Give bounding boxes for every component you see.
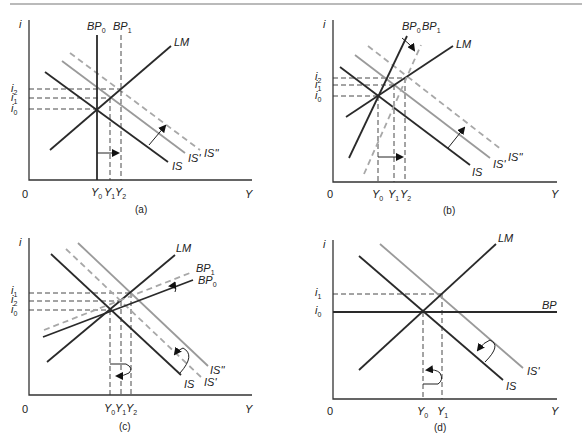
label-bp0-b: BP0 [402,20,421,34]
label-is-prime-c: IS' [204,376,217,388]
x-axis-label-c: Y [245,403,253,415]
axes-d [333,240,557,399]
label-is-prime-b: IS' [493,158,506,170]
curve-lm-b [346,46,453,117]
curl-arrow-y-d [423,370,442,384]
panel-a: i 0 Y BP0 BP1 LM IS IS' IS'' i2 i1 i0 Y0… [11,18,253,215]
tick-y0-d: Y0 [417,405,428,419]
label-is-c: IS [184,378,195,390]
label-lm-a: LM [174,36,190,48]
tick-y1-a: Y1 [104,186,115,200]
panel-c: i 0 Y LM BP1 BP0 IS'' IS' IS i1 i2 i0 Y0… [11,236,253,432]
tick-y0-a: Y0 [91,186,102,200]
y-axis-label-c: i [19,236,22,248]
curve-is-double-prime-b [368,46,502,150]
curve-is-double-prime-a [70,53,200,150]
origin-label-d: 0 [327,405,333,417]
curve-lm-c [47,255,175,362]
y-axis-label-d: i [323,238,326,250]
curve-is-prime-b [355,55,490,158]
label-lm-d: LM [498,232,514,244]
tick-y0-b: Y0 [372,188,383,202]
label-is-b: IS [472,166,483,178]
label-is-double-prime-c: IS'' [210,364,225,376]
tick-y1-c: Y1 [115,402,126,416]
y-axis-label-a: i [19,18,22,30]
label-bp1-a: BP1 [113,20,132,34]
origin-label-a: 0 [22,188,28,200]
curl-arrow-is-d [478,340,495,362]
caption-a: (a) [135,204,147,215]
label-is-a: IS [172,160,183,172]
curve-bp0-c [43,280,193,337]
label-bp1-b: BP1 [422,20,441,34]
tick-y0-c: Y0 [104,402,115,416]
origin-label-b: 0 [327,188,333,200]
curve-bp1-c [44,273,190,330]
tick-y1-d: Y1 [437,405,448,419]
curve-is-prime-d [380,244,523,368]
tick-y2-c: Y2 [126,402,137,416]
panel-b: i 0 Y BP0 BP1 LM IS IS' IS'' i2 i1 i0 Y0… [315,18,559,216]
axes-b [333,20,557,182]
label-bp0-a: BP0 [87,20,106,34]
tick-y2-a: Y2 [115,186,126,200]
curve-is-c [51,254,181,375]
curve-lm-d [359,244,496,370]
x-axis-label-b: Y [551,188,559,200]
caption-d: (d) [434,422,446,433]
curl-arrow-is-c [175,348,189,373]
origin-label-c: 0 [22,403,28,415]
label-is-double-prime-a: IS'' [204,147,219,159]
caption-c: (c) [119,421,131,432]
label-bp-d: BP [542,299,557,311]
label-is-prime-a: IS' [188,152,201,164]
x-axis-label-d: Y [551,405,559,417]
label-is-prime-d: IS' [527,365,540,377]
tick-i1-d: i1 [315,286,321,300]
curve-is-d [359,256,503,380]
curve-is-double-prime-c [78,243,208,366]
tick-y1-b: Y1 [388,188,399,202]
label-bp0-c: BP0 [198,274,217,288]
caption-b: (b) [443,205,455,216]
curve-is-prime-a [62,61,185,153]
panel-d: i 0 Y LM BP IS' IS i1 i0 Y0 Y1 (d) [315,232,559,433]
label-lm-b: LM [456,38,472,50]
label-lm-c: LM [176,242,192,254]
tick-i0-d: i0 [315,304,321,318]
curl-arrow-y-c [110,364,131,376]
tick-y2-b: Y2 [400,188,411,202]
x-axis-label-a: Y [245,188,253,200]
label-is-double-prime-b: IS'' [508,151,523,163]
curve-lm-a [50,46,171,150]
curve-is-a [45,72,168,162]
y-axis-label-b: i [323,18,326,30]
label-is-d: IS [506,380,517,392]
is-lm-bp-figure: i 0 Y BP0 BP1 LM IS IS' IS'' i2 i1 i0 Y0… [0,0,582,443]
